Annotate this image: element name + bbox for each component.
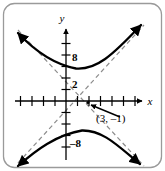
tick-label-8: 8 xyxy=(72,51,78,63)
hyperbola-figure: y x 8 2 –8 (3, –1) xyxy=(0,0,165,171)
center-point-marker xyxy=(86,101,89,104)
graph-canvas: y x 8 2 –8 (3, –1) xyxy=(0,0,165,171)
tick-label-negative-8: –8 xyxy=(69,137,82,149)
tick-label-2: 2 xyxy=(72,78,78,90)
y-axis-label: y xyxy=(59,12,65,24)
center-point-label: (3, –1) xyxy=(96,112,126,125)
x-axis-label: x xyxy=(147,95,153,107)
